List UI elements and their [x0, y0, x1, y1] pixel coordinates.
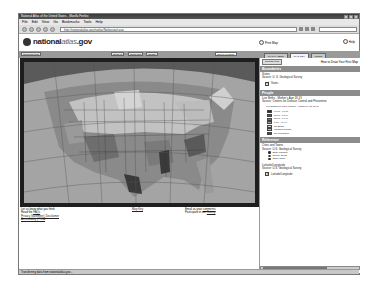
legend-swatch [267, 110, 272, 113]
redraw-map-button[interactable]: Redraw Map [262, 59, 282, 65]
legend-label: Other Cities [273, 157, 286, 160]
tab-print[interactable]: PRINT [311, 53, 327, 58]
status-text: Transferring data from nationalatlas.gov… [21, 270, 72, 274]
checkbox-icon[interactable] [265, 172, 269, 176]
checkbox-label: States [271, 82, 278, 85]
map-toolbar: Overview Map Zoom In Zoom Out Identify S… [19, 51, 259, 58]
zoom-out-button[interactable]: Zoom Out [128, 52, 143, 56]
print-icon[interactable] [305, 27, 309, 31]
window-title: National Atlas of the United States - Mo… [21, 14, 89, 18]
print-map-button[interactable]: Print Map [259, 40, 278, 45]
printer-icon [259, 40, 264, 45]
us-choropleth-map [24, 62, 255, 203]
identify-button[interactable]: Identify [146, 52, 158, 56]
layer-source: Source: U.S. Geological Survey [262, 167, 358, 170]
tab-map-layers[interactable]: MAP LAYERS [264, 53, 288, 58]
site-logo[interactable]: nationalatlas.gov [23, 37, 92, 46]
section-boundaries: States Source: U. S. Geological Survey S… [260, 72, 360, 89]
legend-swatch [267, 125, 272, 128]
help-button[interactable]: Help [343, 39, 355, 44]
legend-swatch [267, 118, 272, 121]
globe-icon [23, 38, 31, 46]
search-input[interactable] [319, 27, 357, 32]
survey-prefix: Participate in our [185, 210, 207, 214]
legend-item: No Population [262, 132, 358, 136]
panel-actions: Redraw Map How to Draw Your First Map [260, 58, 360, 65]
section-people: Live Births - Mother's Age 18-19 Source:… [260, 96, 360, 136]
legend-swatch [267, 114, 272, 117]
legend-swatch [267, 132, 272, 135]
navigation-toolbar: http://nationalatlas.gov/natlas/Natlasst… [19, 25, 359, 34]
map-side-panel: MAP LAYERS MAP KEY PRINT Redraw Map How … [259, 51, 360, 273]
map-key-link[interactable]: Map Key [132, 207, 143, 211]
survey-link[interactable]: Survey [207, 210, 216, 214]
dropdown-icon[interactable] [299, 27, 303, 31]
footer-col-1: Let us know what you think Read the FAQs… [21, 208, 59, 222]
site-header: nationalatlas.gov Print Map Help [19, 34, 359, 51]
tab-map-key[interactable]: MAP KEY [290, 53, 309, 58]
checkbox-icon[interactable] [265, 82, 269, 86]
section-reference: Cities and Towns Source: U.S. Geological… [260, 143, 360, 179]
logo-text-atlas: atlas [61, 37, 76, 46]
forward-icon[interactable] [29, 27, 34, 32]
howto-link[interactable]: How to Draw Your First Map [321, 60, 358, 64]
checkbox-label: Latitude/Longitude [271, 173, 292, 176]
status-bar: Transferring data from nationalatlas.gov… [19, 269, 359, 274]
latlon-checkbox[interactable]: Latitude/Longitude [265, 172, 358, 176]
window-controls [344, 14, 358, 19]
overview-map-button[interactable]: Overview Map [21, 52, 41, 56]
maximize-button[interactable] [349, 15, 353, 19]
map-canvas[interactable] [24, 62, 255, 203]
layer-source: Source: U. S. Geological Survey [262, 76, 358, 79]
legend-swatch [267, 128, 272, 131]
legend-swatch [267, 121, 272, 124]
url-input[interactable]: http://nationalatlas.gov/natlas/Natlasst… [60, 27, 297, 32]
browser-window: National Atlas of the United States - Mo… [18, 13, 360, 275]
layer-source: Source: Centers for Disease Control and … [262, 100, 358, 103]
toolbar-right [299, 27, 315, 31]
other-city-icon [268, 158, 271, 161]
accessibility-link[interactable]: Accessibility | FOIA [21, 217, 45, 221]
logo-text-gov: .gov [77, 37, 92, 46]
close-button[interactable] [354, 15, 358, 19]
back-icon[interactable] [22, 27, 27, 32]
feature-select[interactable]: Select a feature [215, 52, 237, 56]
state-capital-icon [268, 151, 271, 154]
help-icon [343, 39, 348, 44]
help-label: Help [349, 40, 355, 44]
minimize-button[interactable] [344, 15, 348, 19]
home-icon[interactable] [50, 27, 55, 32]
stop-icon[interactable] [43, 27, 48, 32]
county-seat-icon [268, 155, 271, 158]
reload-icon[interactable] [36, 27, 41, 32]
print-map-label: Print Map [265, 41, 278, 45]
legend-title: Live Births per 1000 Women - Mother's Ag… [262, 105, 358, 108]
go-icon[interactable] [311, 27, 315, 31]
states-checkbox[interactable]: States [265, 82, 358, 86]
legend-label: No Population [274, 132, 289, 135]
footer-col-2: Map Key [132, 208, 143, 211]
map-frame [20, 58, 259, 207]
logo-text: national [33, 37, 61, 46]
zoom-in-button[interactable]: Zoom In [111, 52, 124, 56]
panel-tabs: MAP LAYERS MAP KEY PRINT [260, 51, 360, 58]
footer-col-3: Email us your comments Participate in ou… [185, 208, 216, 215]
page-footer: Let us know what you think Read the FAQs… [20, 207, 259, 227]
